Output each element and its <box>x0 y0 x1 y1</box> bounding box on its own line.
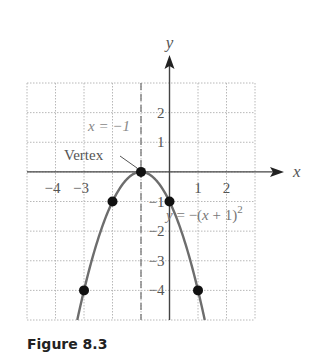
y-tick-label: 2 <box>157 105 165 121</box>
data-point <box>108 197 118 207</box>
parabola-figure: −4−31221−1−2−3−4xyx = −1Vertexy = −(x + … <box>0 0 310 361</box>
y-axis-label: y <box>164 33 174 52</box>
y-tick-label: −1 <box>149 194 165 210</box>
x-tick-label: 2 <box>223 180 231 196</box>
x-tick-label: 1 <box>194 180 202 196</box>
data-point <box>165 197 175 207</box>
axis-of-symmetry-label: x = −1 <box>87 118 130 134</box>
data-point <box>136 167 146 177</box>
x-tick-label: −4 <box>45 180 61 196</box>
y-tick-label: 1 <box>157 134 165 150</box>
labels: −4−31221−1−2−3−4xyx = −1Vertexy = −(x + … <box>45 33 301 298</box>
y-tick-label: −2 <box>149 223 165 239</box>
y-tick-label: −4 <box>149 282 165 298</box>
vertex-label: Vertex <box>64 147 104 163</box>
y-tick-label: −3 <box>149 253 165 269</box>
data-point <box>79 285 89 295</box>
data-point <box>193 285 203 295</box>
axes <box>27 55 284 320</box>
x-axis-label: x <box>292 162 301 181</box>
x-tick-label: −3 <box>73 180 89 196</box>
equation-label: y = −(x + 1)2 <box>164 203 243 224</box>
figure-caption: Figure 8.3 <box>27 336 107 352</box>
